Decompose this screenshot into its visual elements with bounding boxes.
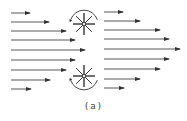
vortex-wheel-icon [69,65,97,90]
figure-caption: (a) [0,101,187,111]
vortex-wheel-icon [69,10,97,35]
outgoing-flow-arrows [104,12,180,88]
